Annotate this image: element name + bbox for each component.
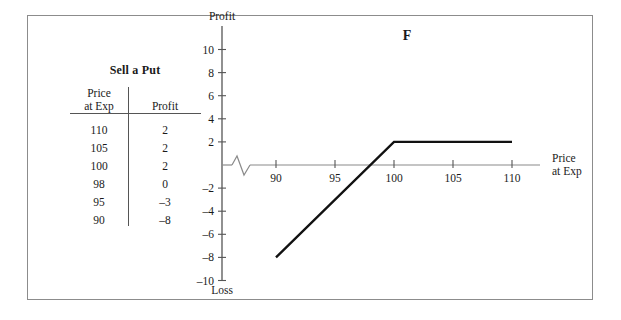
cell-price: 110	[70, 113, 129, 136]
column-header-price-line1: Price	[70, 87, 128, 100]
y-axis-label-bottom: Loss	[211, 284, 233, 296]
table-title: Sell a Put	[70, 63, 200, 78]
cell-profit: 2	[129, 154, 202, 172]
column-header-price-line2: at Exp	[70, 100, 128, 113]
y-tick-label: 8	[208, 67, 214, 79]
y-tick-label: –8	[202, 251, 215, 263]
y-tick-label: 2	[208, 136, 214, 148]
x-tick-label: 100	[385, 172, 403, 184]
y-tick-label: 10	[203, 44, 215, 56]
x-tick-label: 90	[270, 172, 282, 184]
table-row: 1102	[70, 113, 201, 136]
table-body: 11021052100298095–390–8	[70, 113, 201, 226]
table-row: 90–8	[70, 208, 201, 226]
cell-profit: –8	[129, 208, 202, 226]
axis-break-zigzag-icon	[232, 156, 250, 175]
profit-table: Price at Exp Profit 11021052100298095–39…	[70, 87, 201, 226]
table-row: 1052	[70, 136, 201, 154]
profit-table-block: Sell a Put Price at Exp Profit 110210521…	[70, 63, 200, 226]
table-head: Price at Exp Profit	[70, 87, 201, 113]
x-tick-label: 95	[329, 172, 341, 184]
cell-price: 98	[70, 172, 129, 190]
y-tick-label: 6	[208, 90, 214, 102]
chart-svg: 108642–2–4–6–8–10 9095100105110 Profit L…	[196, 8, 586, 298]
figure-root: Sell a Put Price at Exp Profit 110210521…	[0, 0, 621, 320]
table-row: 980	[70, 172, 201, 190]
y-tick-label: –4	[202, 205, 215, 217]
y-axis-label-top: Profit	[209, 10, 236, 22]
cell-price: 95	[70, 190, 129, 208]
y-tick-label: –6	[202, 228, 215, 240]
x-tick-label: 110	[504, 172, 521, 184]
x-axis-label-line1: Price	[552, 152, 576, 164]
y-tick-label: –2	[202, 182, 215, 194]
column-header-profit: Profit	[129, 87, 202, 113]
x-axis-label-line2: at Exp	[552, 165, 582, 178]
profit-chart: 108642–2–4–6–8–10 9095100105110 Profit L…	[196, 8, 586, 298]
cell-price: 105	[70, 136, 129, 154]
table-row: 95–3	[70, 190, 201, 208]
cell-price: 90	[70, 208, 129, 226]
cell-profit: 2	[129, 113, 202, 136]
table-header-row: Price at Exp Profit	[70, 87, 201, 113]
cell-profit: 2	[129, 136, 202, 154]
panel-letter: F	[403, 28, 412, 43]
x-tick-label: 105	[444, 172, 462, 184]
y-tick-label: 4	[208, 113, 214, 125]
cell-profit: 0	[129, 172, 202, 190]
x-axis-ticks: 9095100105110	[270, 160, 520, 184]
cell-price: 100	[70, 154, 129, 172]
table-row: 1002	[70, 154, 201, 172]
column-header-price: Price at Exp	[70, 87, 129, 113]
cell-profit: –3	[129, 190, 202, 208]
payoff-line	[276, 142, 512, 258]
